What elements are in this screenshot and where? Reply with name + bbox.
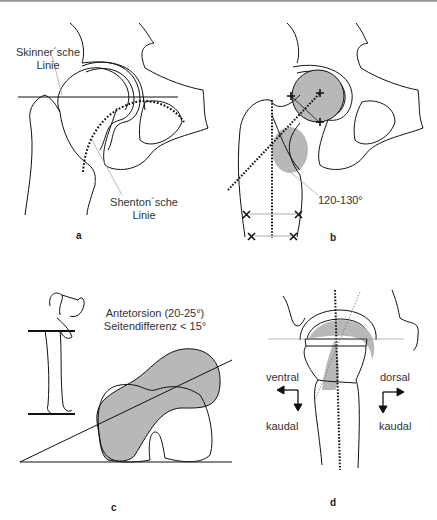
ventral-label: ventral [266,371,299,384]
panel-c-label: c [111,502,117,513]
panel-a-label: a [76,230,82,241]
panel-d-label: d [330,497,336,508]
panel-b-drawing [228,23,423,240]
shenton-label-line1: Shenton´sche [108,196,180,209]
ccd-angle-label: 120-130° [318,194,363,207]
antetorsion-line2: Seitendifferenz < 15° [100,320,210,333]
antetorsion-line1: Antetorsion (20-25°) [100,307,210,320]
skinner-line-label: Skinner´sche Linie [13,46,83,72]
kaudal-left-label: kaudal [266,420,298,433]
figure-drawing [0,0,437,520]
dorsal-label: dorsal [380,371,410,384]
skinner-label-line2: Linie [13,59,83,72]
shenton-line-label: Shenton´sche Linie [108,196,180,222]
skinner-label-line1: Skinner´sche [13,46,83,59]
panel-b-label: b [330,232,336,243]
kaudal-right-label: kaudal [379,420,411,433]
shenton-label-line2: Linie [108,209,180,222]
antetorsion-label: Antetorsion (20-25°) Seitendifferenz < 1… [100,307,210,333]
